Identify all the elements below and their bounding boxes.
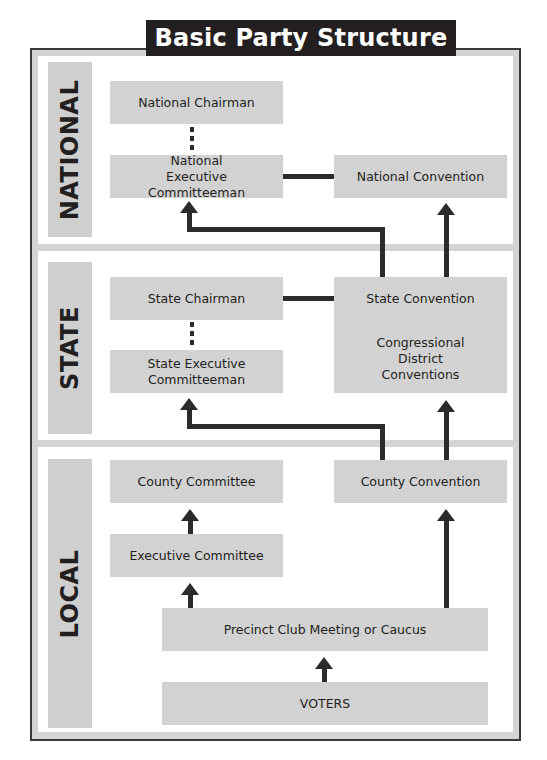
executive-committee-box: Executive Committee xyxy=(110,534,283,577)
dotted-link-state xyxy=(190,340,194,345)
county-committee-box: County Committee xyxy=(110,460,283,503)
national-executive-committeeman-box: National Executive Committeeman xyxy=(110,155,283,198)
county-convention-box: County Convention xyxy=(334,460,507,503)
state-executive-committeeman-box: State Executive Committeeman xyxy=(110,350,283,393)
county-to-state-exec-arrow-horizontal xyxy=(187,424,385,429)
arrow-head-icon xyxy=(180,201,198,213)
arrow-head-icon xyxy=(437,509,455,521)
dotted-link-state xyxy=(190,331,194,336)
state-level-label: STATE xyxy=(48,262,92,434)
precinct-to-exec-committee-arrow xyxy=(188,593,193,608)
state-chairman-box: State Chairman xyxy=(110,277,283,320)
dotted-link-national xyxy=(190,136,194,141)
national-chairman-box: National Chairman xyxy=(110,81,283,124)
arrow-head-icon xyxy=(315,657,333,669)
precinct-meeting-box: Precinct Club Meeting or Caucus xyxy=(162,608,488,651)
arrow-head-icon xyxy=(437,203,455,215)
county-to-state-exec-arrow-vertical xyxy=(380,424,385,460)
state-to-national-exec-arrow-shaft xyxy=(187,210,192,232)
state-to-national-exec-arrow-vertical xyxy=(380,227,385,277)
dotted-link-national xyxy=(190,145,194,150)
county-to-state-exec-arrow-shaft xyxy=(187,408,192,429)
congressional-district-conventions-label: Congressional District Conventions xyxy=(334,335,507,383)
dotted-link-national xyxy=(190,127,194,132)
voters-to-precinct-arrow xyxy=(322,667,327,682)
county-to-state-convention-arrow xyxy=(444,410,449,460)
arrow-head-icon xyxy=(437,400,455,412)
exec-to-county-committee-arrow xyxy=(188,519,193,534)
diagram-title: Basic Party Structure xyxy=(146,20,456,56)
state-chair-to-convention-link xyxy=(283,296,334,301)
state-to-national-convention-arrow xyxy=(444,213,449,277)
state-convention-box: State Convention Congressional District … xyxy=(334,277,507,393)
national-level-label: NATIONAL xyxy=(48,62,92,237)
local-label-text: LOCAL xyxy=(56,549,84,638)
state-label-text: STATE xyxy=(56,306,84,390)
arrow-head-icon xyxy=(180,398,198,410)
precinct-to-county-convention-arrow xyxy=(444,519,449,608)
national-label-text: NATIONAL xyxy=(56,79,84,219)
state-convention-label: State Convention xyxy=(366,291,474,307)
national-convention-box: National Convention xyxy=(334,155,507,198)
voters-box: VOTERS xyxy=(162,682,488,725)
arrow-head-icon xyxy=(181,509,199,521)
arrow-head-icon xyxy=(181,583,199,595)
local-level-label: LOCAL xyxy=(48,459,92,728)
national-exec-to-convention-link xyxy=(283,174,334,179)
state-to-national-exec-arrow-horizontal xyxy=(187,227,385,232)
dotted-link-state xyxy=(190,322,194,327)
